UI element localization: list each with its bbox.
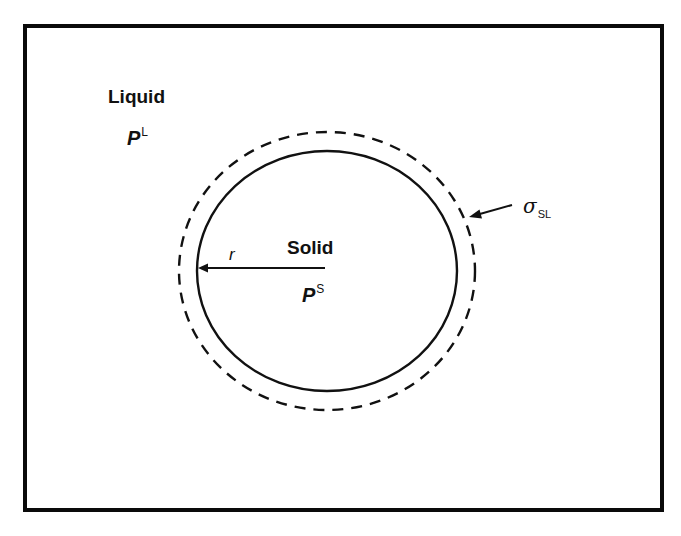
liquid-pressure-symbol: P [127,127,140,149]
interface-energy-label: σSL [523,196,551,216]
solid-pressure-symbol: P [302,284,315,306]
solid-nucleus-boundary [197,151,457,391]
radius-label: r [229,246,235,263]
nucleation-diagram [0,0,681,536]
interface-arrowhead-icon [469,210,482,219]
liquid-pressure-label: PL [127,128,148,148]
sigma-symbol: σ [523,194,537,218]
liquid-label: Liquid [108,87,165,106]
solid-pressure-superscript: S [316,282,324,296]
interface-boundary-dashed [179,132,475,410]
liquid-pressure-superscript: L [141,125,148,139]
radius-arrow [198,264,325,273]
solid-label: Solid [287,238,333,257]
sigma-subscript: SL [538,208,551,220]
solid-pressure-label: PS [302,285,324,305]
radius-arrowhead-icon [198,264,208,273]
interface-pointer-arrow [469,205,512,219]
